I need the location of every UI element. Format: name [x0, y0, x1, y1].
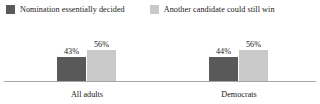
bar-value-label: 56%: [239, 40, 268, 49]
category-axis-label: Democrats: [189, 90, 289, 100]
bar-value-label: 56%: [87, 40, 116, 49]
bar-value-label: 43%: [57, 47, 86, 56]
plot-area: 43% 56% All adults 44% 56% Democrats: [0, 19, 320, 104]
bar-rect[interactable]: [87, 50, 116, 81]
legend-swatch-icon: [6, 5, 15, 14]
category-axis-label: All adults: [37, 90, 137, 100]
legend-entry-label: Nomination essentially decided: [20, 5, 125, 15]
bar-group-democrats: 44% 56% Democrats: [209, 19, 269, 104]
bar-group-all-adults: 43% 56% All adults: [57, 19, 117, 104]
legend-entry-nomination-essentially-decided[interactable]: Nomination essentially decided: [6, 0, 125, 19]
legend-entry-label: Another candidate could still win: [164, 5, 275, 15]
grouped-bar-chart: Nomination essentially decided Another c…: [0, 0, 320, 104]
bar-rect[interactable]: [239, 50, 268, 81]
legend-entry-another-candidate-could-still-win[interactable]: Another candidate could still win: [150, 0, 275, 19]
chart-legend: Nomination essentially decided Another c…: [0, 0, 320, 19]
bar-rect[interactable]: [57, 57, 86, 81]
bar-value-label: 44%: [209, 47, 238, 56]
bar-rect[interactable]: [209, 57, 238, 81]
category-axis-baseline: [4, 81, 316, 82]
legend-swatch-icon: [150, 5, 159, 14]
